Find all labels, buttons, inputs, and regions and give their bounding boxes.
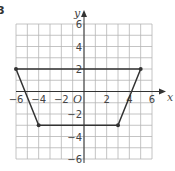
y-tick-label: −6 [67,154,82,165]
coordinate-grid-chart: xyO −6−4−2246642−2−4−6 [0,0,175,171]
vertex-point [37,123,41,127]
x-tick-label: 6 [149,94,155,105]
x-tick-label: −6 [9,94,24,105]
x-tick-label: −4 [31,94,46,105]
x-axis-arrow-icon [159,89,166,95]
y-tick-label: −2 [67,109,82,120]
origin-label: O [73,93,82,106]
x-tick-label: −2 [54,94,69,105]
y-tick-label: 6 [76,19,82,30]
x-axis-label: x [167,91,174,104]
y-tick-label: 4 [76,42,82,53]
y-axis-arrow-icon [81,10,87,17]
y-tick-label: −4 [67,132,82,143]
vertex-point [139,67,143,71]
vertex-point [14,67,18,71]
x-tick-label: 2 [103,94,109,105]
vertex-point [116,123,120,127]
